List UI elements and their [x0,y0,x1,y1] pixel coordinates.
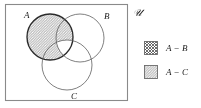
legend-item-a-minus-b: A − B [145,42,188,55]
legend-label-a-minus-b: A − B [165,43,188,53]
legend-swatch-a-minus-b [145,42,158,55]
set-label-a: A [23,10,30,20]
legend: A − B A − C [145,42,189,79]
legend-label-a-minus-c: A − C [165,67,189,77]
legend-item-a-minus-c: A − C [145,66,189,79]
set-label-c: C [71,91,78,101]
set-label-b: B [104,11,110,21]
universal-set-symbol: 𝒰 [133,7,145,18]
venn-diagram-figure: A B C 𝒰 A − B A − C [0,0,201,108]
legend-swatch-a-minus-c [145,66,158,79]
